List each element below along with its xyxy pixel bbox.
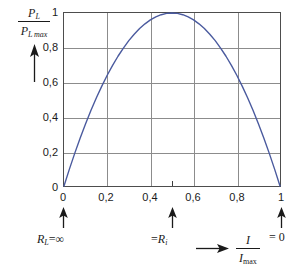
annotation-r-equals: = (49, 232, 56, 246)
y-tick-label-0.8: 0,8 (28, 42, 58, 53)
annotation-arrow-r-infinity-icon (58, 207, 69, 228)
x-tick-label-0: 0 (48, 192, 78, 203)
cropped-caption-text (6, 263, 256, 270)
y-axis-denominator-symbol: P (21, 24, 28, 38)
annotation-arrow-r-zero-icon (276, 207, 287, 228)
x-tick-label-0.2: 0,2 (91, 192, 121, 203)
annotation-r-value-infinity: ∞ (56, 232, 65, 246)
annotation-label-r-zero: = 0 (269, 231, 285, 243)
y-tick-label-0.2: 0,2 (28, 147, 58, 158)
cropped-caption-strip (6, 263, 256, 270)
x-axis-direction-arrow-icon (196, 243, 229, 254)
x-axis-numerator-symbol: I (246, 233, 250, 247)
annotation-ri-equals: = (151, 232, 158, 246)
annotation-ri-subscript: i (165, 238, 167, 247)
annotation-label-r-infinity: RL=∞ (37, 233, 64, 247)
y-tick-label-0.6: 0,6 (28, 77, 58, 88)
y-axis-denominator: PL max (18, 22, 51, 39)
annotation-arrow-r-internal-icon (167, 207, 178, 228)
y-axis-denominator-subscript: L max (28, 30, 47, 39)
x-tick-label-0.4: 0,4 (135, 192, 165, 203)
x-tick-label-0.6: 0,6 (178, 192, 208, 203)
x-axis-numerator: I (236, 231, 260, 249)
figure-container: PL PL max 1 0,8 0,6 0,4 0,2 0 0 0,2 0,4 … (0, 0, 294, 273)
x-tick-label-0.8: 0,8 (222, 192, 252, 203)
x-tick-label-1: 1 (266, 192, 294, 203)
plot-area (63, 12, 281, 187)
x-minor-tick-0.5 (172, 181, 173, 186)
y-tick-label-0.4: 0,4 (28, 112, 58, 123)
y-tick-label-1: 1 (28, 7, 58, 18)
x-axis-fraction: I Imax (236, 231, 260, 266)
power-transfer-curve (64, 13, 280, 186)
annotation-label-r-internal: =Ri (151, 233, 167, 247)
x-axis-label-group: I Imax (196, 231, 260, 266)
